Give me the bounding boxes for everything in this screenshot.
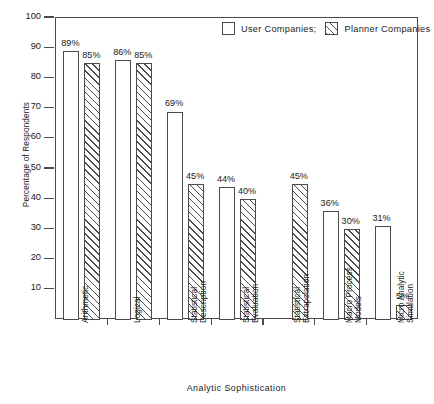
x-category-label-line1: Statistical <box>190 287 199 323</box>
bar <box>375 226 391 320</box>
bar-value-label: 85% <box>76 50 106 60</box>
plot-area <box>55 17 418 319</box>
bar <box>63 51 79 320</box>
x-category-label: Logical <box>133 296 142 323</box>
y-tick-label: 80 <box>12 71 41 81</box>
x-category-label-line1: Statistical <box>242 287 251 323</box>
legend-swatch-hatched-icon <box>325 22 338 35</box>
y-tick-label: 50 <box>12 162 41 172</box>
bar <box>323 211 339 320</box>
legend-swatch-open-icon <box>222 22 235 35</box>
legend-label-user-companies: User Companies; <box>241 24 316 34</box>
y-tick-mark <box>44 288 54 289</box>
bar-value-label: 45% <box>284 171 314 181</box>
y-tick-mark <box>44 77 54 78</box>
x-category-label-line1: Arithmetic <box>81 286 90 323</box>
legend: User Companies; Planner Companies <box>222 22 430 35</box>
y-tick-mark <box>44 167 54 168</box>
bar-value-label: 31% <box>367 213 397 223</box>
x-category-label-line2: Description <box>199 281 208 323</box>
x-axis-separator <box>107 319 108 325</box>
x-category-label: StatisticalDescription <box>190 281 208 323</box>
bar-value-label: 45% <box>180 171 210 181</box>
bar <box>115 60 131 320</box>
x-category-label: Macro ProcessModels <box>345 267 363 323</box>
x-axis-separator <box>314 319 315 325</box>
x-axis-title: Analytic Sophistication <box>55 383 418 393</box>
x-axis-separator <box>159 319 160 325</box>
y-tick-mark <box>44 47 54 48</box>
y-tick-mark <box>44 107 54 108</box>
x-axis-separator <box>211 319 212 325</box>
x-category-label: StatisticalExtrapolation <box>293 274 311 323</box>
bar-value-label: 40% <box>232 186 262 196</box>
y-tick-label: 10 <box>12 282 41 292</box>
bar-value-label: 89% <box>55 38 85 48</box>
x-category-label-line1: Logical <box>133 296 142 323</box>
x-category-label-line2: Extrapolation <box>303 274 312 323</box>
bar-chart: Percentage of Respondents 10203040506070… <box>0 0 434 404</box>
bar-value-label: 36% <box>315 198 345 208</box>
y-tick-label: 30 <box>12 222 41 232</box>
y-tick-mark <box>44 137 54 138</box>
bar <box>84 63 100 320</box>
y-tick-mark <box>44 258 54 259</box>
x-category-label-line1: Micro Analytic <box>397 271 406 323</box>
bar-value-label: 69% <box>159 98 189 108</box>
x-category-label-line2: Evaluation <box>251 284 260 323</box>
bar <box>136 63 152 320</box>
y-tick-mark <box>44 198 54 199</box>
x-category-label-line1: Macro Process <box>345 267 354 323</box>
y-tick-label: 60 <box>12 131 41 141</box>
y-tick-label: 90 <box>12 41 41 51</box>
x-category-label: Arithmetic <box>81 286 90 323</box>
y-tick-label: 100 <box>12 11 41 21</box>
x-category-label-line1: Statistical <box>293 287 302 323</box>
y-tick-mark <box>44 16 54 17</box>
y-axis-title: Percentage of Respondents <box>22 30 31 280</box>
bar <box>219 187 235 320</box>
x-category-label: StatisticalEvaluation <box>242 284 260 323</box>
x-category-label-line2: Simulation <box>406 271 415 323</box>
legend-item-planner-companies: Planner Companies <box>325 22 430 35</box>
x-axis-separator <box>366 319 367 325</box>
bar <box>167 112 183 320</box>
y-tick-label: 40 <box>12 192 41 202</box>
y-tick-mark <box>44 228 54 229</box>
legend-item-user-companies: User Companies; <box>222 22 316 35</box>
y-tick-label: 70 <box>12 101 41 111</box>
y-tick-label: 20 <box>12 252 41 262</box>
bar-value-label: 85% <box>128 50 158 60</box>
bar-value-label: 44% <box>211 174 241 184</box>
x-category-label: Micro AnalyticSimulation <box>397 271 415 323</box>
bar-value-label: 30% <box>336 216 366 226</box>
x-axis-separator <box>262 319 263 325</box>
x-category-label-line2: Models <box>354 267 363 323</box>
legend-label-planner-companies: Planner Companies <box>344 24 430 34</box>
